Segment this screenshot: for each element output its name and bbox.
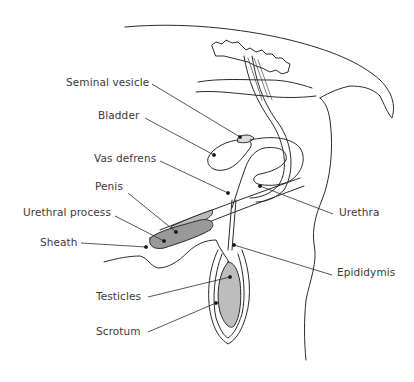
hind-leg-outline: [305, 98, 332, 360]
label-testicles: Testicles: [96, 290, 141, 302]
urethra: [232, 138, 303, 208]
label-sheath: Sheath: [40, 236, 78, 248]
anatomy-diagram: [0, 0, 414, 382]
vas-defrens: [228, 200, 232, 250]
label-penis: Penis: [95, 180, 123, 192]
label-urethra: Urethra: [339, 206, 379, 218]
label-epididymis: Epididymis: [337, 266, 395, 278]
testicle: [218, 262, 241, 327]
label-vas-defrens: Vas defrens: [94, 152, 156, 164]
label-seminal-vesicle: Seminal vesicle: [66, 76, 149, 88]
label-bladder: Bladder: [98, 109, 139, 121]
label-urethral-process: Urethral process: [23, 206, 111, 218]
vertebrae: [212, 40, 290, 74]
label-scrotum: Scrotum: [96, 325, 141, 337]
back-outline: [125, 25, 394, 118]
